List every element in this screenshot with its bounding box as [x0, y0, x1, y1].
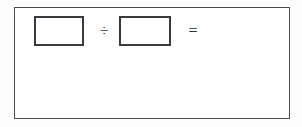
divisor-value — [121, 18, 169, 44]
dividend-input-box[interactable] — [34, 16, 84, 46]
worksheet-root: ÷ = — [0, 0, 302, 127]
division-sign-icon: ÷ — [94, 16, 114, 46]
dividend-value — [36, 18, 82, 44]
divisor-input-box[interactable] — [119, 16, 171, 46]
equation-row: ÷ = — [15, 8, 291, 54]
equals-sign-icon: = — [181, 16, 205, 46]
work-area[interactable] — [15, 54, 291, 118]
division-exercise-panel: ÷ = — [14, 7, 290, 119]
